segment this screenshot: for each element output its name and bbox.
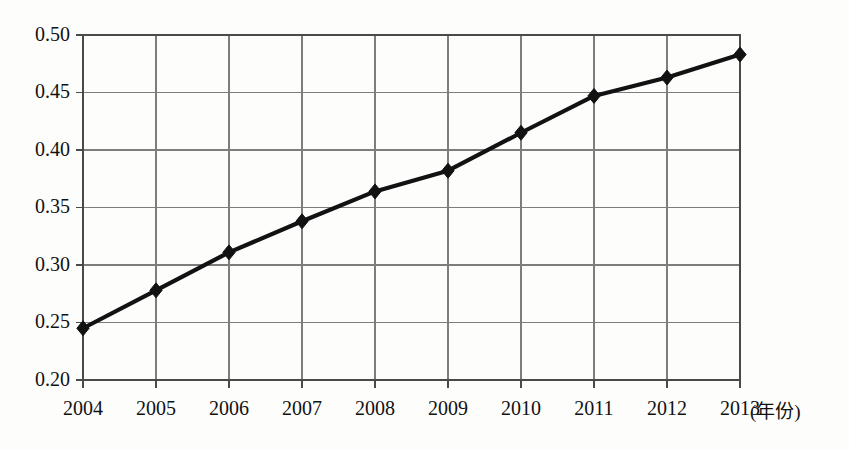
x-axis-tick-label: 2010 [501, 397, 541, 419]
x-axis-tick-label: 2011 [574, 397, 613, 419]
y-axis-tick-label: 0.25 [35, 310, 70, 332]
x-axis-tick-label: 2009 [428, 397, 468, 419]
x-axis-tick-label: 2007 [282, 397, 322, 419]
y-axis-tick-label: 0.35 [35, 195, 70, 217]
x-axis-tick-label: 2005 [136, 397, 176, 419]
x-axis-unit-note: (年份) [750, 401, 801, 423]
x-axis-tick-label: 2012 [647, 397, 687, 419]
y-axis-tick-label: 0.30 [35, 253, 70, 275]
chart-canvas: 0.500.450.400.350.300.250.20 20042005200… [0, 0, 849, 450]
y-axis-tick-label: 0.20 [35, 368, 70, 390]
line-chart: 0.500.450.400.350.300.250.20 20042005200… [0, 0, 849, 450]
x-axis-tick-label: 2006 [209, 397, 249, 419]
y-axis-tick-label: 0.45 [35, 80, 70, 102]
x-axis-tick-label: 2004 [63, 397, 103, 419]
x-axis-tick-label: 2008 [355, 397, 395, 419]
y-axis-tick-label: 0.50 [35, 23, 70, 45]
y-axis-tick-label: 0.40 [35, 138, 70, 160]
chart-background [0, 0, 849, 450]
